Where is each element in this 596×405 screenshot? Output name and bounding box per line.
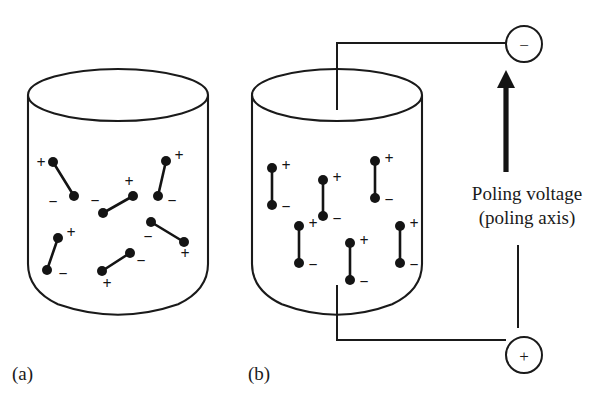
plus-sign: + — [281, 157, 290, 174]
dipole-node-negative — [42, 265, 52, 275]
dipole-node-negative — [69, 191, 79, 201]
dipole-node-positive — [395, 221, 405, 231]
negative-electrode-sign: − — [519, 36, 529, 55]
dipole-node-negative — [125, 248, 135, 258]
minus-sign: − — [281, 198, 290, 215]
plus-sign: + — [332, 169, 341, 186]
piezoelectric-poling-figure: +−+−+−+−+−+− +−+−+−+−+−+− −+ Poling volt… — [0, 0, 596, 405]
minus-sign: − — [409, 256, 418, 273]
dipole-node-positive — [53, 233, 63, 243]
dipole-node-negative — [370, 193, 380, 203]
minus-sign: − — [136, 252, 145, 269]
poling-voltage-label: Poling voltage — [472, 183, 582, 204]
minus-sign: − — [384, 191, 393, 208]
plus-sign: + — [359, 232, 368, 249]
minus-sign: − — [167, 192, 176, 209]
arrow-head — [497, 70, 515, 88]
poling-axis-label: (poling axis) — [479, 207, 576, 229]
dipole-node-positive — [98, 208, 108, 218]
dipole-node-positive — [161, 156, 171, 166]
dipole-node-negative — [294, 258, 304, 268]
dipole-node-negative — [345, 275, 355, 285]
dipole-node-positive — [345, 238, 355, 248]
dipole-node-positive — [267, 163, 277, 173]
negative-electrode: − — [506, 26, 542, 62]
plus-sign: + — [180, 245, 189, 262]
plus-sign: + — [409, 215, 418, 232]
minus-sign: − — [332, 210, 341, 227]
plus-sign: + — [102, 275, 111, 292]
positive-electrode-sign: + — [519, 347, 529, 366]
dipole-node-positive — [294, 221, 304, 231]
plus-sign: + — [174, 147, 183, 164]
plus-sign: + — [66, 224, 75, 241]
cylinder-b-body — [252, 95, 422, 315]
positive-electrode: + — [506, 337, 542, 373]
dipole-node-negative — [395, 258, 405, 268]
dipole-node-negative — [267, 200, 277, 210]
cylinder-a-top-ellipse — [28, 69, 208, 121]
plus-sign: + — [384, 150, 393, 167]
minus-sign: − — [143, 228, 152, 245]
dipole-node-positive — [318, 175, 328, 185]
dipole-node-negative — [318, 211, 328, 221]
plus-sign: + — [36, 154, 45, 171]
dipole-node-negative — [128, 191, 138, 201]
minus-sign: − — [58, 265, 67, 282]
panel-label-b: (b) — [248, 363, 270, 385]
poling-direction-arrow — [497, 70, 515, 172]
dipole-node-positive — [48, 157, 58, 167]
minus-sign: − — [359, 273, 368, 290]
dipole-node-positive — [370, 156, 380, 166]
plus-sign: + — [308, 215, 317, 232]
plus-sign: + — [124, 173, 133, 190]
minus-sign: − — [308, 256, 317, 273]
diagram-canvas: +−+−+−+−+−+− +−+−+−+−+−+− −+ Poling volt… — [0, 0, 596, 405]
dipole-node-negative — [153, 191, 163, 201]
panel-label-a: (a) — [12, 363, 33, 385]
minus-sign: − — [48, 193, 57, 210]
dipole-node-positive — [146, 217, 156, 227]
minus-sign: − — [90, 192, 99, 209]
